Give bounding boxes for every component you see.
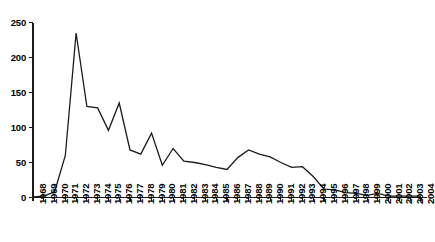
line-chart: 050100150200250 196819691970197119721973…	[0, 0, 435, 242]
chart-axes	[33, 23, 427, 198]
data-series-line	[33, 33, 421, 197]
chart-tick-marks	[29, 23, 421, 202]
chart-plot-area	[0, 0, 435, 242]
